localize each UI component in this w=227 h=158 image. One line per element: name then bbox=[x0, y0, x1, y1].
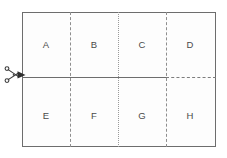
diagram-canvas: A B C D E F G H bbox=[0, 0, 227, 158]
grid-panel bbox=[22, 12, 216, 147]
scissors-icon bbox=[4, 65, 28, 85]
vertical-divider-3 bbox=[166, 12, 167, 147]
vertical-divider-2 bbox=[118, 12, 119, 147]
cell-label-b: B bbox=[74, 40, 114, 50]
cell-label-c: C bbox=[122, 40, 162, 50]
cell-label-a: A bbox=[26, 40, 66, 50]
cell-label-e: E bbox=[26, 111, 66, 121]
cut-line-dashed-segment bbox=[166, 77, 216, 78]
cell-label-h: H bbox=[170, 111, 210, 121]
cell-label-f: F bbox=[74, 111, 114, 121]
cut-line-solid-segment bbox=[22, 77, 166, 78]
vertical-divider-1 bbox=[70, 12, 71, 147]
cell-label-g: G bbox=[122, 111, 162, 121]
cell-label-d: D bbox=[170, 40, 210, 50]
